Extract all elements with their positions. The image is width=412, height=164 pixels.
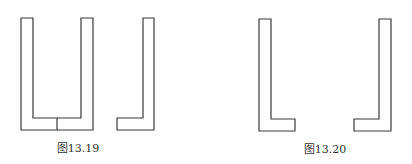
- figure-13-19: [21, 18, 154, 130]
- figure-13-20: [259, 19, 391, 131]
- u-shape: [21, 18, 93, 130]
- l-shape-left: [259, 19, 295, 131]
- figure-caption-13-20: 图13.20: [304, 140, 347, 156]
- figure-caption-13-19: 图13.19: [57, 139, 100, 155]
- l-shape-right: [354, 19, 391, 131]
- l-shape-right: [117, 18, 154, 130]
